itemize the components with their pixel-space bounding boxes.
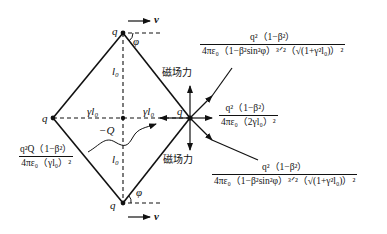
magnetic-force-top-label: 磁场力 <box>162 68 192 78</box>
velocity-top-label: v <box>154 14 159 25</box>
formula-left-center-numerator: q²Q（1−β²） <box>18 145 74 156</box>
charge-top-label: q <box>112 26 118 37</box>
formula-middle-right-denominator: 4πε₀（2γl₀）² <box>219 115 278 128</box>
formula-top-right-numerator: q²（1−β²） <box>248 33 297 44</box>
charge-right-label: q <box>177 106 183 117</box>
charge-bottom-label: q <box>110 200 116 211</box>
formula-left-center-denominator: 4πε₀（γl₀）² <box>19 156 73 169</box>
charge-left-label: q <box>42 113 48 124</box>
formula-bottom-right: q²（1−β²） 4πε₀（1−β²sin²φ）³ᐟ²（√(1+γ²l₀)）² <box>212 163 357 186</box>
formula-bottom-right-numerator: q²（1−β²） <box>260 163 309 174</box>
formula-top-right: q²（1−β²） 4πε₀（1−β²sin²φ）³ᐟ²（√(1+γ²l₀)）² <box>200 33 345 56</box>
angle-top-label: φ <box>133 36 139 47</box>
angle-bottom-label: φ <box>136 187 142 198</box>
formula-bottom-right-denominator: 4πε₀（1−β²sin²φ）³ᐟ²（√(1+γ²l₀)）² <box>212 174 357 187</box>
formula-top-right-denominator: 4πε₀（1−β²sin²φ）³ᐟ²（√(1+γ²l₀)）² <box>200 44 345 57</box>
distance-left-label: γl₀ <box>87 106 98 117</box>
charge-center-label: −Q <box>99 125 114 136</box>
formula-middle-right: q²（1−β²） 4πε₀（2γl₀）² <box>219 104 278 127</box>
distance-right-label: γl₀ <box>143 106 154 117</box>
velocity-bottom-label: v <box>154 211 159 222</box>
formula-middle-right-numerator: q²（1−β²） <box>224 104 273 115</box>
formula-left-center: q²Q（1−β²） 4πε₀（γl₀）² <box>18 145 74 168</box>
magnetic-force-bottom-label: 磁场力 <box>163 155 193 165</box>
distance-top-label: l₀ <box>112 66 119 77</box>
distance-bottom-label: l₀ <box>112 154 119 165</box>
angle-arc-bottom <box>129 196 131 203</box>
